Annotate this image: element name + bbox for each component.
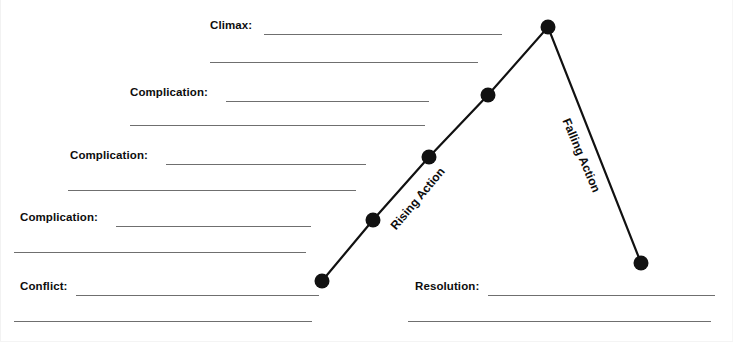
plot-point-complication-3[interactable] bbox=[481, 88, 496, 103]
plot-diagram-worksheet: Climax: Complication: Complication: Comp… bbox=[0, 0, 733, 342]
plot-point-complication-2[interactable] bbox=[422, 150, 437, 165]
plot-point-resolution[interactable] bbox=[634, 256, 649, 271]
plot-arc-line bbox=[322, 27, 641, 281]
plot-point-climax[interactable] bbox=[541, 20, 556, 35]
plot-point-conflict[interactable] bbox=[315, 274, 330, 289]
plot-arc-chart bbox=[0, 0, 733, 342]
plot-point-complication-1[interactable] bbox=[366, 213, 381, 228]
